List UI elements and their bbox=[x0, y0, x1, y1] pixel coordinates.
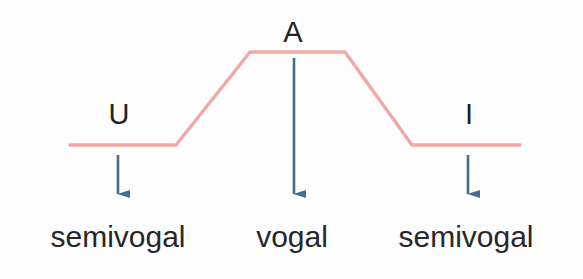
peak-label-i: I bbox=[450, 100, 488, 129]
peak-label-a: A bbox=[274, 18, 312, 47]
peak-label-u: U bbox=[100, 100, 138, 129]
class-label-semivowel-left: semivogal bbox=[8, 222, 228, 252]
class-label-vowel: vogal bbox=[228, 222, 356, 252]
class-label-semivowel-right: semivogal bbox=[356, 222, 576, 252]
sonority-diagram: U A I semivogal vogal semivogal bbox=[0, 0, 583, 279]
